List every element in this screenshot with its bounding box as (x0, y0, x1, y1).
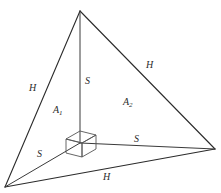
label-area-a1: A1 (53, 105, 63, 115)
label-s-left: S (37, 149, 42, 159)
label-area-a2: A2 (123, 97, 133, 107)
edge-foot-to-right (80, 143, 215, 149)
label-h-bottom: H (103, 172, 110, 182)
edge-apex-to-bottom-left (5, 11, 80, 187)
geometry-figure: H H S A1 A2 S S H (0, 0, 221, 193)
edge-apex-to-right (80, 11, 215, 149)
label-h-left: H (29, 83, 36, 93)
label-s-vertical: S (85, 76, 90, 86)
figure-svg (0, 0, 221, 193)
label-h-right: H (146, 60, 153, 70)
label-s-base: S (134, 134, 139, 144)
